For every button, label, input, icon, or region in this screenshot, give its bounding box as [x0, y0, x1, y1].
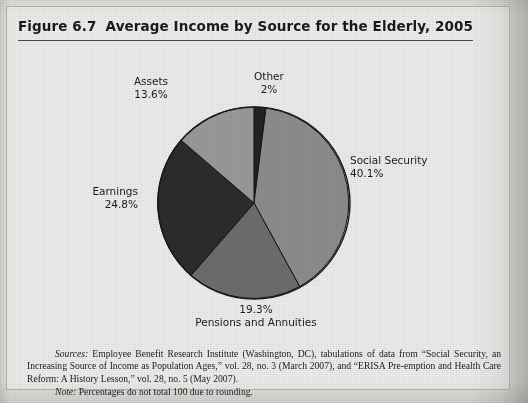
pie-label-assets-name: Assets: [108, 75, 194, 88]
pie-label-social-security: Social Security 40.1%: [350, 154, 480, 180]
footnote-sources-text: Employee Benefit Research Institute (Was…: [27, 348, 501, 384]
pie-label-pensions-value: 19.3%: [156, 303, 356, 316]
pie-label-other: Other 2%: [234, 70, 304, 96]
pie-label-other-value: 2%: [234, 83, 304, 96]
pie-label-social-security-value: 40.1%: [350, 167, 480, 180]
pie-label-earnings: Earnings 24.8%: [34, 185, 138, 211]
pie-svg: [154, 103, 354, 303]
footnote-note-lead: Note:: [55, 386, 76, 397]
figure-number: Figure 6.7: [18, 18, 97, 34]
pie-label-earnings-value: 24.8%: [34, 198, 138, 211]
title-divider: [18, 40, 473, 41]
figure-header: Figure 6.7Average Income by Source for t…: [18, 18, 488, 41]
pie-graphic: [154, 103, 354, 303]
footnote-sources-lead: Sources:: [55, 348, 88, 359]
pie-label-other-name: Other: [234, 70, 304, 83]
footnote-note: Note: Percentages do not total 100 due t…: [27, 386, 501, 398]
pie-label-pensions-name: Pensions and Annuities: [156, 316, 356, 329]
figure-title-text: Average Income by Source for the Elderly…: [106, 18, 473, 34]
figure-page: Figure 6.7Average Income by Source for t…: [0, 0, 528, 403]
footnote-sources: Sources: Employee Benefit Research Insti…: [27, 348, 501, 385]
footnote-note-text: Percentages do not total 100 due to roun…: [76, 386, 253, 397]
pie-label-assets: Assets 13.6%: [108, 75, 194, 101]
figure-footnote: Sources: Employee Benefit Research Insti…: [27, 348, 501, 399]
pie-label-social-security-name: Social Security: [350, 154, 480, 167]
pie-chart: Assets 13.6% Other 2% Social Security 40…: [6, 50, 510, 342]
pie-label-assets-value: 13.6%: [108, 88, 194, 101]
pie-label-pensions-and-annuities: 19.3% Pensions and Annuities: [156, 303, 356, 329]
page-title: Figure 6.7Average Income by Source for t…: [18, 18, 488, 34]
pie-label-earnings-name: Earnings: [34, 185, 138, 198]
